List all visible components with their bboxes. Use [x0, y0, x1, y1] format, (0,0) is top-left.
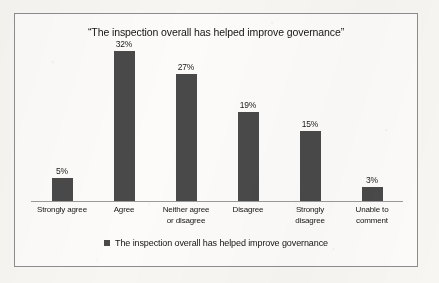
bar-value-label: 19%: [240, 101, 256, 110]
x-label-line: Neither agree: [156, 205, 216, 216]
bar-unable-to-comment[interactable]: [362, 187, 383, 201]
bar-strongly-disagree[interactable]: [300, 131, 321, 201]
bar-value-label: 32%: [116, 40, 132, 49]
bar-slot-unable-to-comment: 3%: [341, 40, 403, 201]
bar-agree[interactable]: [114, 51, 135, 201]
bar-value-label: 5%: [56, 167, 68, 176]
x-label-line: Disagree: [218, 205, 278, 216]
bar-value-label: 15%: [302, 120, 318, 129]
bar-slot-strongly-agree: 5%: [31, 40, 93, 201]
x-label-strongly-agree: Strongly agree: [31, 205, 93, 226]
x-label-neither-agree-or-disagree: Neither agreeor disagree: [155, 205, 217, 226]
x-label-line: disagree: [280, 216, 340, 227]
bar-slot-neither-agree-or-disagree: 27%: [155, 40, 217, 201]
x-label-line: comment: [342, 216, 402, 227]
bar-series: 5% 32% 27% 19% 15% 3%: [31, 40, 403, 201]
x-label-line: Strongly: [280, 205, 340, 216]
legend-label: The inspection overall has helped improv…: [115, 238, 328, 248]
x-axis-line: [31, 201, 403, 202]
bar-slot-agree: 32%: [93, 40, 155, 201]
x-label-line: or disagree: [156, 216, 216, 227]
plot-area: 5% 32% 27% 19% 15% 3%: [31, 40, 403, 202]
bar-disagree[interactable]: [238, 112, 259, 201]
bar-slot-disagree: 19%: [217, 40, 279, 201]
chart-frame: “The inspection overall has helped impro…: [14, 13, 418, 267]
bar-value-label: 3%: [366, 176, 378, 185]
x-label-unable-to-comment: Unable tocomment: [341, 205, 403, 226]
bar-strongly-agree[interactable]: [52, 178, 73, 201]
x-label-disagree: Disagree: [217, 205, 279, 226]
bar-value-label: 27%: [178, 63, 194, 72]
x-label-line: Agree: [94, 205, 154, 216]
chart-title: “The inspection overall has helped impro…: [15, 26, 417, 38]
x-label-agree: Agree: [93, 205, 155, 226]
x-label-strongly-disagree: Stronglydisagree: [279, 205, 341, 226]
x-label-line: Unable to: [342, 205, 402, 216]
legend-swatch-icon: [104, 240, 110, 246]
chart-legend: The inspection overall has helped improv…: [15, 238, 417, 248]
bar-slot-strongly-disagree: 15%: [279, 40, 341, 201]
x-label-line: Strongly agree: [32, 205, 92, 216]
x-axis-category-labels: Strongly agree Agree Neither agreeor dis…: [31, 205, 403, 226]
bar-neither-agree-or-disagree[interactable]: [176, 74, 197, 201]
